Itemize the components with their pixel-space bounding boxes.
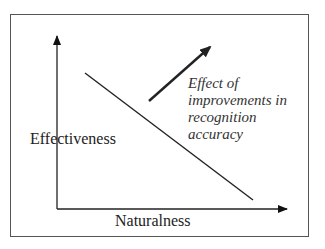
annotation-line: Effect of	[188, 75, 287, 92]
annotation-line: improvements in	[188, 92, 287, 109]
annotation-line: accuracy	[188, 126, 287, 143]
annotation-line: recognition	[188, 109, 287, 126]
y-axis-label: Effectiveness	[30, 130, 116, 148]
x-axis-label: Naturalness	[115, 212, 191, 230]
annotation-text: Effect of improvements in recognition ac…	[188, 75, 287, 143]
